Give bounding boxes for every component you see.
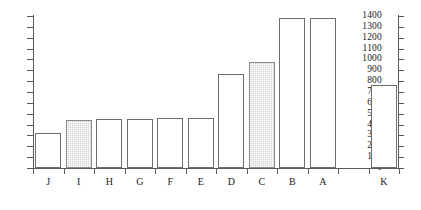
bar-B[interactable] xyxy=(279,18,305,168)
x-tick-mark xyxy=(399,169,400,174)
x-tick-mark xyxy=(308,169,309,174)
bar-J[interactable] xyxy=(35,133,61,168)
bar-chart: 0100200300400500600700800900100011001200… xyxy=(0,0,421,210)
x-tick-mark xyxy=(94,169,95,174)
bar-A[interactable] xyxy=(310,18,336,168)
x-tick-label-I: I xyxy=(64,176,95,187)
x-tick-mark xyxy=(125,169,126,174)
x-tick-label-D: D xyxy=(216,176,247,187)
bar-D[interactable] xyxy=(218,74,244,168)
bar-K[interactable] xyxy=(371,85,397,168)
x-tick-mark xyxy=(33,169,34,174)
plot-area xyxy=(33,16,399,168)
bar-I[interactable] xyxy=(66,120,92,168)
x-tick-label-F: F xyxy=(155,176,186,187)
x-tick-mark xyxy=(64,169,65,174)
x-tick-label-B: B xyxy=(277,176,308,187)
bar-H[interactable] xyxy=(96,119,122,168)
x-tick-mark xyxy=(186,169,187,174)
x-tick-mark xyxy=(277,169,278,174)
bar-F[interactable] xyxy=(157,118,183,168)
x-tick-mark xyxy=(155,169,156,174)
x-tick-label-H: H xyxy=(94,176,125,187)
x-tick-mark xyxy=(247,169,248,174)
x-tick-label-J: J xyxy=(33,176,64,187)
x-tick-mark xyxy=(216,169,217,174)
x-tick-mark xyxy=(369,169,370,174)
x-tick-label-K: K xyxy=(369,176,400,187)
x-tick-label-A: A xyxy=(308,176,339,187)
x-tick-label-E: E xyxy=(186,176,217,187)
bar-C[interactable] xyxy=(249,62,275,168)
x-tick-label-C: C xyxy=(247,176,278,187)
x-tick-label-G: G xyxy=(125,176,156,187)
bar-G[interactable] xyxy=(127,119,153,168)
bar-E[interactable] xyxy=(188,118,214,168)
x-tick-mark xyxy=(338,169,339,174)
